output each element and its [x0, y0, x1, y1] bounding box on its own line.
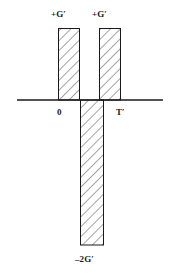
axis-tick-label-end: T′ — [116, 108, 125, 117]
gradient-waveform-figure: +G′ +G′ 0 T′ –2G′ — [0, 0, 175, 277]
amplitude-label-positive-second: +G′ — [92, 10, 107, 19]
axis-tick-label-start: 0 — [57, 108, 62, 117]
gradient-lobe-negative — [81, 100, 104, 245]
waveform-plot-area — [0, 0, 175, 277]
gradient-lobe-positive-first — [59, 29, 80, 101]
gradient-lobe-positive-second — [100, 29, 121, 101]
amplitude-label-positive-first: +G′ — [51, 10, 66, 19]
amplitude-label-negative: –2G′ — [75, 255, 94, 264]
